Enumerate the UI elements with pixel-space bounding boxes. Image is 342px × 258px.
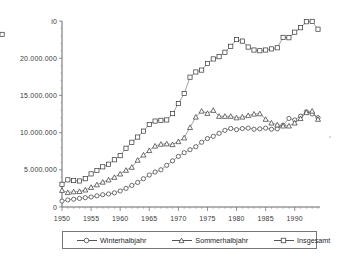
- data-point-square: [252, 48, 256, 52]
- data-point-square: [101, 165, 105, 169]
- data-point-circle: [287, 116, 291, 120]
- data-point-square: [211, 57, 215, 61]
- data-point-circle: [112, 191, 116, 195]
- data-point-circle: [66, 198, 70, 202]
- x-tick-label: 1970: [170, 215, 186, 222]
- data-point-circle: [252, 127, 256, 131]
- square-marker-icon: [274, 236, 294, 245]
- data-point-circle: [258, 127, 262, 131]
- data-point-square: [304, 20, 308, 24]
- data-point-circle: [89, 195, 93, 199]
- data-point-square: [200, 68, 204, 72]
- legend-item-winterhalbjahr: Winterhalbjahr: [77, 236, 146, 245]
- data-point-circle: [106, 192, 110, 196]
- chart-container: 05.000.00010.000.00015.000.00020.000.000…: [0, 0, 342, 258]
- data-point-triangle: [275, 122, 280, 127]
- data-point-circle: [159, 168, 163, 172]
- data-point-triangle: [106, 177, 111, 182]
- data-point-circle: [136, 180, 140, 184]
- data-point-square: [176, 101, 180, 105]
- legend-item-insgesamt: Insgesamt: [274, 236, 330, 245]
- data-point-square: [298, 26, 302, 30]
- y-tick-label: 5.000.000: [24, 166, 57, 173]
- y-tick-label: 0: [53, 204, 57, 211]
- data-point-square: [229, 44, 233, 48]
- data-point-square: [106, 162, 110, 166]
- data-point-circle: [269, 127, 273, 131]
- data-point-circle: [77, 196, 81, 200]
- data-point-square: [153, 119, 157, 123]
- data-point-square: [182, 91, 186, 95]
- data-point-circle: [60, 199, 64, 203]
- circle-marker-icon: [77, 236, 97, 245]
- data-point-circle: [141, 177, 145, 181]
- data-point-triangle: [205, 111, 210, 116]
- y-tick-label: i0: [51, 18, 57, 25]
- data-point-square: [72, 178, 76, 182]
- chart-legend: Winterhalbjahr Sommerhalbjahr Insgesamt: [62, 231, 317, 249]
- data-point-square: [246, 45, 250, 49]
- data-point-circle: [95, 194, 99, 198]
- data-point-square: [165, 118, 169, 122]
- data-point-square: [147, 122, 151, 126]
- data-point-square: [124, 146, 128, 150]
- data-point-square: [217, 55, 221, 59]
- data-point-square: [269, 47, 273, 51]
- x-tick-label: 1950: [54, 215, 70, 222]
- data-point-triangle: [112, 175, 117, 180]
- data-point-square: [234, 38, 238, 42]
- data-point-triangle: [83, 187, 88, 192]
- data-point-square: [89, 172, 93, 176]
- data-point-circle: [153, 170, 157, 174]
- data-point-square: [293, 30, 297, 34]
- data-point-triangle: [211, 108, 216, 113]
- data-point-circle: [240, 126, 244, 130]
- series-winterhalbjahr: [60, 110, 320, 203]
- x-tick-label: 1990: [287, 215, 303, 222]
- data-point-circle: [246, 126, 250, 130]
- data-point-square: [118, 154, 122, 158]
- x-tick-label: 1975: [199, 215, 215, 222]
- data-point-triangle: [124, 168, 129, 173]
- data-point-circle: [147, 173, 151, 177]
- data-point-square: [130, 140, 134, 144]
- data-point-circle: [229, 126, 233, 130]
- data-point-circle: [165, 163, 169, 167]
- data-point-square: [141, 129, 145, 133]
- data-point-triangle: [164, 141, 169, 146]
- data-point-circle: [83, 196, 87, 200]
- data-point-triangle: [118, 171, 123, 176]
- y-tick-label: 20.000.000: [20, 55, 57, 62]
- data-point-square: [316, 27, 320, 31]
- data-point-circle: [188, 148, 192, 152]
- line-chart-plot: 05.000.00010.000.00015.000.00020.000.000…: [0, 0, 342, 258]
- data-point-triangle: [188, 125, 193, 130]
- data-point-triangle: [269, 120, 274, 125]
- data-point-circle: [234, 128, 238, 132]
- data-point-square: [170, 112, 174, 116]
- data-point-square: [159, 118, 163, 122]
- data-point-triangle: [257, 111, 262, 116]
- data-point-square: [188, 75, 192, 79]
- data-point-triangle: [89, 185, 94, 190]
- x-tick-label: 1955: [83, 215, 99, 222]
- data-point-circle: [124, 186, 128, 190]
- data-point-triangle: [60, 188, 65, 193]
- data-point-circle: [205, 136, 209, 140]
- data-point-square: [310, 19, 314, 23]
- data-point-circle: [118, 189, 122, 193]
- x-tick-label: 1960: [112, 215, 128, 222]
- data-point-triangle: [100, 180, 105, 185]
- data-point-triangle: [182, 135, 187, 140]
- data-point-circle: [72, 197, 76, 201]
- data-point-circle: [101, 193, 105, 197]
- data-point-circle: [130, 183, 134, 187]
- data-point-square: [136, 135, 140, 139]
- data-point-square: [83, 177, 87, 181]
- data-point-square: [287, 36, 291, 40]
- data-point-square: [60, 182, 64, 186]
- data-point-square: [0, 32, 4, 36]
- data-point-triangle: [153, 143, 158, 148]
- data-point-circle: [264, 126, 268, 130]
- data-point-square: [281, 35, 285, 39]
